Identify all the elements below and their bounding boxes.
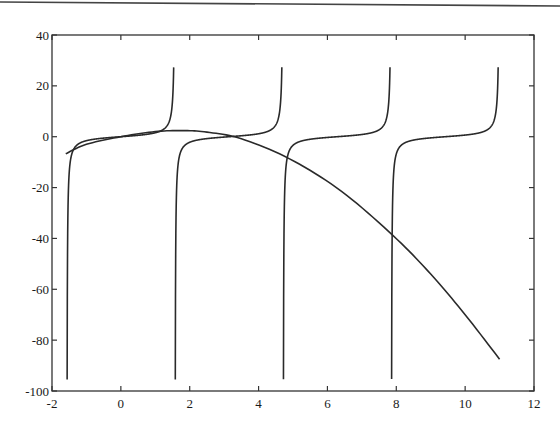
x-tick-label: 8: [393, 396, 400, 411]
x-tick-label: 4: [255, 396, 262, 411]
y-tick-label: -20: [32, 180, 49, 195]
plot-frame: [52, 35, 534, 391]
y-axis-ticks: [52, 35, 534, 391]
y-tick-label: 0: [43, 129, 50, 144]
x-tick-label: 6: [324, 396, 331, 411]
y-tick-label: -80: [32, 333, 49, 348]
line-chart: -2024681012 40200-20-40-60-80-100: [0, 0, 560, 434]
x-tick-label: 10: [459, 396, 472, 411]
y-tick-label: -40: [32, 231, 49, 246]
x-tick-label: 0: [118, 396, 125, 411]
series-line-2: [175, 67, 282, 379]
x-axis-labels: -2024681012: [47, 396, 541, 411]
y-tick-label: -60: [32, 282, 49, 297]
x-axis-ticks: [52, 35, 534, 391]
series-line-5: [66, 131, 500, 360]
y-tick-label: 40: [36, 28, 49, 43]
y-axis-labels: 40200-20-40-60-80-100: [25, 28, 49, 399]
y-tick-label: -100: [25, 384, 49, 399]
series-line-4: [392, 67, 499, 379]
y-tick-label: 20: [36, 78, 49, 93]
series-line-3: [283, 67, 390, 379]
x-tick-label: 12: [528, 396, 541, 411]
series-line-1: [67, 67, 174, 379]
plot-curves: [66, 67, 500, 379]
x-tick-label: 2: [186, 396, 193, 411]
